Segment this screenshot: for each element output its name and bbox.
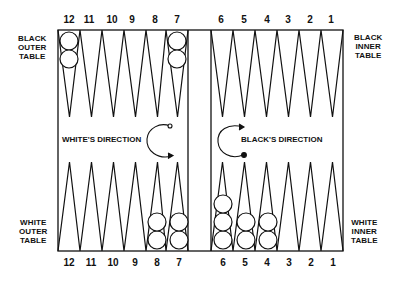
top-point-number: 2 [300, 15, 320, 25]
checker [214, 231, 232, 249]
white-direction-label: WHITE'S DIRECTION [62, 135, 141, 144]
label-line: TABLE [351, 236, 378, 245]
label-line: TABLE [18, 52, 47, 61]
bottom-points [58, 162, 343, 251]
bottom-point-number: 4 [257, 258, 277, 268]
checker [148, 231, 166, 249]
label-line: WHITE [19, 218, 48, 227]
label-black-outer-table: BLACK OUTER TABLE [18, 34, 47, 61]
backgammon-board [0, 0, 399, 281]
label-line: BLACK [354, 33, 383, 42]
label-black-inner-table: BLACK INNER TABLE [354, 33, 383, 60]
checker [60, 32, 78, 50]
top-points [58, 30, 343, 117]
label-line: TABLE [19, 236, 48, 245]
bottom-point-number: 2 [301, 258, 321, 268]
checker [168, 50, 186, 68]
label-line: BLACK [18, 34, 47, 43]
label-white-outer-table: WHITE OUTER TABLE [19, 218, 48, 245]
label-line: TABLE [354, 51, 383, 60]
checker [168, 32, 186, 50]
checker [170, 213, 188, 231]
bottom-point-number: 12 [59, 258, 79, 268]
checker [60, 50, 78, 68]
top-point-number: 1 [321, 15, 341, 25]
label-white-inner-table: WHITE INNER TABLE [351, 218, 378, 245]
top-point-number: 4 [257, 15, 277, 25]
checker [237, 213, 255, 231]
top-point-number: 12 [59, 15, 79, 25]
top-point-number: 9 [122, 15, 142, 25]
top-point-number: 11 [79, 15, 99, 25]
top-point-number: 8 [145, 15, 165, 25]
bottom-point-number: 1 [323, 258, 343, 268]
bottom-point-number: 6 [213, 258, 233, 268]
bottom-point-number: 8 [147, 258, 167, 268]
label-line: INNER [351, 227, 378, 236]
black-direction-label: BLACK'S DIRECTION [241, 135, 322, 144]
checker [259, 231, 277, 249]
label-line: INNER [354, 42, 383, 51]
label-line: WHITE [351, 218, 378, 227]
checker [214, 195, 232, 213]
top-point-number: 5 [234, 15, 254, 25]
checker [148, 213, 166, 231]
checker [237, 231, 255, 249]
white-direction-arrow-icon [147, 124, 173, 159]
top-point-number: 6 [211, 15, 231, 25]
top-point-number: 3 [278, 15, 298, 25]
top-point-number: 7 [167, 15, 187, 25]
checker [214, 213, 232, 231]
checker [259, 213, 277, 231]
bottom-point-number: 11 [81, 258, 101, 268]
top-point-number: 10 [102, 15, 122, 25]
bottom-point-number: 9 [125, 258, 145, 268]
bottom-point-number: 5 [235, 258, 255, 268]
bottom-point-number: 3 [279, 258, 299, 268]
bottom-point-number: 10 [103, 258, 123, 268]
label-line: OUTER [19, 227, 48, 236]
checker [170, 231, 188, 249]
bottom-point-number: 7 [169, 258, 189, 268]
label-line: OUTER [18, 43, 47, 52]
